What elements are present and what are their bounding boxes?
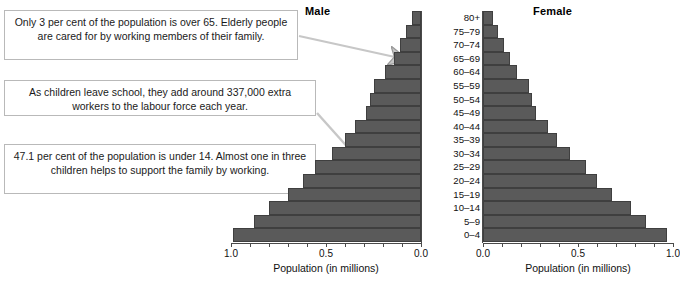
age-label-30-34: 30–34 xyxy=(453,147,480,161)
male-axis-tick xyxy=(307,243,308,247)
female-axis-tick xyxy=(578,243,579,247)
age-label-65-69: 65–69 xyxy=(453,52,480,66)
bar-male-50-54 xyxy=(370,93,421,107)
bar-male-45-49 xyxy=(366,106,421,120)
age-label-20-24: 20–24 xyxy=(453,174,480,188)
bar-female-10-14 xyxy=(483,201,631,215)
bar-male-15-19 xyxy=(288,188,421,202)
bar-female-80+ xyxy=(483,11,493,25)
male-axis-caption: Population (in millions) xyxy=(273,262,379,274)
age-label-15-19: 15–19 xyxy=(453,188,480,202)
bar-female-20-24 xyxy=(483,174,597,188)
age-label-0-4: 0–4 xyxy=(464,228,480,242)
female-axis-tick xyxy=(483,243,484,247)
female-axis-tick xyxy=(635,243,636,247)
age-label-45-49: 45–49 xyxy=(453,106,480,120)
bar-male-35-39 xyxy=(345,133,421,147)
male-axis-tick-label: 0.5 xyxy=(319,248,333,259)
age-label-60-64: 60–64 xyxy=(453,65,480,79)
bar-male-55-59 xyxy=(374,79,422,93)
bar-female-65-69 xyxy=(483,52,510,66)
male-axis-tick xyxy=(231,243,232,247)
age-label-70-74: 70–74 xyxy=(453,38,480,52)
age-label-80+: 80+ xyxy=(464,11,480,25)
female-axis-tick xyxy=(540,243,541,247)
female-axis-tick xyxy=(521,243,522,247)
male-axis-tick xyxy=(250,243,251,247)
male-axis-baseline xyxy=(421,11,422,243)
female-axis-caption: Population (in millions) xyxy=(525,262,631,274)
female-axis-tick xyxy=(597,243,598,247)
bar-female-40-44 xyxy=(483,120,548,134)
bar-female-50-54 xyxy=(483,93,532,107)
bar-male-20-24 xyxy=(303,174,421,188)
male-axis-tick xyxy=(326,243,327,247)
bar-female-60-64 xyxy=(483,65,517,79)
age-label-25-29: 25–29 xyxy=(453,160,480,174)
male-axis-tick xyxy=(402,243,403,247)
bar-female-70-74 xyxy=(483,38,504,52)
female-axis: 0.00.51.0Population (in millions) xyxy=(483,243,673,283)
male-axis-tick-label: 0.0 xyxy=(414,248,428,259)
bar-female-55-59 xyxy=(483,79,529,93)
bar-female-5-9 xyxy=(483,215,646,229)
bar-female-35-39 xyxy=(483,133,557,147)
male-axis: 1.00.50.0Population (in millions) xyxy=(231,243,421,283)
bar-male-40-44 xyxy=(355,120,422,134)
bar-male-75-79 xyxy=(406,25,421,39)
male-axis-tick xyxy=(421,243,422,247)
female-axis-tick-label: 0.5 xyxy=(571,248,585,259)
female-axis-tick xyxy=(673,243,674,247)
male-axis-tick xyxy=(364,243,365,247)
bar-female-0-4 xyxy=(483,228,667,242)
female-axis-tick xyxy=(654,243,655,247)
bar-male-30-34 xyxy=(332,147,421,161)
male-bars xyxy=(231,11,421,242)
bar-male-5-9 xyxy=(254,215,421,229)
age-label-10-14: 10–14 xyxy=(453,201,480,215)
female-axis-tick-label: 0.0 xyxy=(476,248,490,259)
bar-male-70-74 xyxy=(400,38,421,52)
female-bars xyxy=(483,11,673,242)
female-axis-tick xyxy=(616,243,617,247)
age-label-5-9: 5–9 xyxy=(464,215,480,229)
bar-male-60-64 xyxy=(385,65,421,79)
male-axis-tick xyxy=(345,243,346,247)
bar-male-25-29 xyxy=(315,160,421,174)
female-axis-tick xyxy=(559,243,560,247)
age-label-50-54: 50–54 xyxy=(453,93,480,107)
male-axis-tick xyxy=(288,243,289,247)
male-axis-tick xyxy=(383,243,384,247)
female-axis-tick-label: 1.0 xyxy=(666,248,680,259)
bar-female-75-79 xyxy=(483,25,498,39)
age-label-55-59: 55–59 xyxy=(453,79,480,93)
age-label-40-44: 40–44 xyxy=(453,120,480,134)
age-group-labels: 80+75–7970–7465–6960–6455–5950–5445–4940… xyxy=(424,11,482,242)
bar-female-30-34 xyxy=(483,147,570,161)
age-label-35-39: 35–39 xyxy=(453,133,480,147)
bar-male-65-69 xyxy=(394,52,421,66)
bar-male-10-14 xyxy=(269,201,421,215)
age-label-75-79: 75–79 xyxy=(453,25,480,39)
bar-male-0-4 xyxy=(233,228,421,242)
female-axis-tick xyxy=(502,243,503,247)
male-axis-tick-label: 1.0 xyxy=(224,248,238,259)
bar-female-25-29 xyxy=(483,160,586,174)
bar-male-80+ xyxy=(412,11,422,25)
bar-female-45-49 xyxy=(483,106,536,120)
male-axis-tick xyxy=(269,243,270,247)
bar-female-15-19 xyxy=(483,188,612,202)
